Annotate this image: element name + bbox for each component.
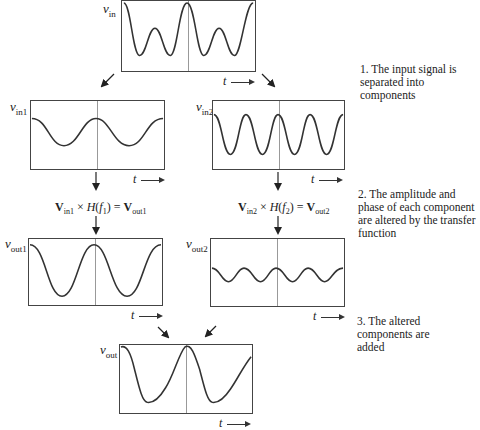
vout-waveform xyxy=(120,345,252,413)
vout1-waveform xyxy=(29,239,162,305)
vout2-label: vout2 xyxy=(186,236,208,254)
vout1-t-label: t xyxy=(131,308,134,323)
equation-component-2: Vin2 × H(f2) = Vout2 xyxy=(238,200,329,216)
vin2-t-label: t xyxy=(311,172,314,187)
vin-t-arrow xyxy=(231,82,253,83)
vout2-plot xyxy=(210,238,345,307)
vin1-waveform xyxy=(31,101,164,169)
vin1-plot xyxy=(30,100,165,170)
arrow-split-right xyxy=(262,74,274,86)
vout1-label: vout1 xyxy=(5,236,27,254)
vin1-label: vin1 xyxy=(10,99,27,117)
note-step-3: 3. The altered components are added xyxy=(357,315,447,354)
vin2-plot xyxy=(212,100,345,170)
vin-label: vin xyxy=(103,1,116,19)
vout1-t-arrow xyxy=(139,316,161,317)
vout-plot xyxy=(119,344,253,414)
equation-component-1: Vin1 × H(f1) = Vout1 xyxy=(55,200,146,216)
vin1-t-label: t xyxy=(133,172,136,187)
vout-label: vout xyxy=(100,342,117,360)
arrow-merge-left xyxy=(158,327,168,337)
vout1-plot xyxy=(28,238,163,306)
note-step-2: 2. The amplitude and phase of each compo… xyxy=(358,188,478,240)
vin-t-label: t xyxy=(223,74,226,89)
vout-t-arrow xyxy=(227,424,249,425)
vout2-t-label: t xyxy=(313,309,316,324)
vin2-label: vin2 xyxy=(196,99,213,117)
vin2-t-arrow xyxy=(319,180,341,181)
vin-plot xyxy=(121,0,256,72)
vin1-t-arrow xyxy=(141,180,163,181)
vout2-waveform xyxy=(211,239,344,306)
vout-t-label: t xyxy=(219,416,222,430)
arrow-split-left xyxy=(102,74,114,86)
arrow-merge-right xyxy=(206,326,216,336)
note-step-1: 1. The input signal is separated into co… xyxy=(360,63,480,102)
vout2-t-arrow xyxy=(321,317,343,318)
vin-waveform xyxy=(122,1,255,71)
vin2-waveform xyxy=(213,101,344,169)
